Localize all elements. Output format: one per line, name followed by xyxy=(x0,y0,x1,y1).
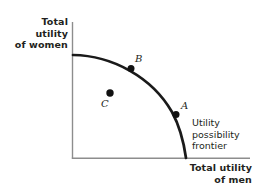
frontier-annotation-label: Utility possibility frontier xyxy=(192,117,256,152)
point-label-a: A xyxy=(181,101,188,111)
x-axis-label: Total utility of men xyxy=(178,162,252,185)
y-axis-label: Total utility of women xyxy=(6,16,68,51)
point-marker-b xyxy=(128,65,135,72)
point-marker-a xyxy=(173,111,180,118)
point-label-c: C xyxy=(101,99,109,109)
utility-possibility-frontier-figure: Total utility of women Total utility of … xyxy=(0,0,258,195)
point-label-b: B xyxy=(135,54,142,64)
point-marker-c xyxy=(106,89,113,96)
